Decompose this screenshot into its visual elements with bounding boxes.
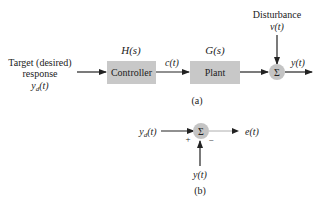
plant-label: Plant — [205, 67, 226, 78]
error-arrowhead — [232, 128, 239, 134]
output-signal-label: y(t) — [290, 57, 306, 69]
sum-symbol-b: Σ — [198, 126, 204, 137]
caption-b: (b) — [194, 185, 206, 197]
block-diagram: Target (desired) response yd(t) H(s) Con… — [0, 0, 322, 206]
figure-b: yd(t) Σ + − e(t) y(t) (b) — [138, 123, 259, 197]
disturbance-label: Disturbance — [253, 9, 302, 20]
error-signal-label: e(t) — [245, 126, 260, 138]
feedback-signal-label: y(t) — [192, 169, 208, 181]
input-signal-label-b: yd(t) — [138, 126, 157, 139]
input-label-line2: response — [23, 68, 59, 79]
caption-a: (a) — [191, 95, 202, 107]
plant-transfer-function: G(s) — [205, 44, 225, 57]
controller-label: Controller — [111, 67, 153, 78]
disturbance-signal: v(t) — [270, 21, 285, 33]
controller-output-label: c(t) — [165, 57, 180, 69]
input-signal-label: yd(t) — [30, 80, 49, 93]
minus-sign: − — [208, 135, 213, 145]
plus-sign: + — [185, 134, 190, 144]
controller-transfer-function: H(s) — [120, 44, 141, 57]
sum-symbol-a: Σ — [274, 67, 280, 78]
figure-a: Target (desired) response yd(t) H(s) Con… — [8, 9, 312, 107]
